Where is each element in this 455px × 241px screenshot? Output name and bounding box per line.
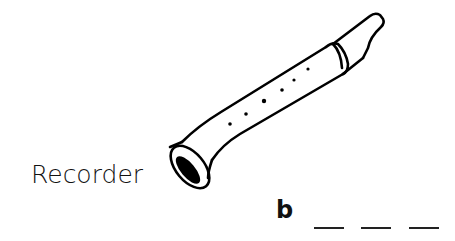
first-letter: b: [276, 196, 293, 224]
word-label: Recorder: [31, 160, 143, 189]
letter-blank-2[interactable]: [361, 227, 391, 229]
letter-blank-3[interactable]: [409, 227, 439, 229]
letter-blank-1[interactable]: [314, 227, 344, 229]
recorder-icon: [0, 0, 455, 241]
